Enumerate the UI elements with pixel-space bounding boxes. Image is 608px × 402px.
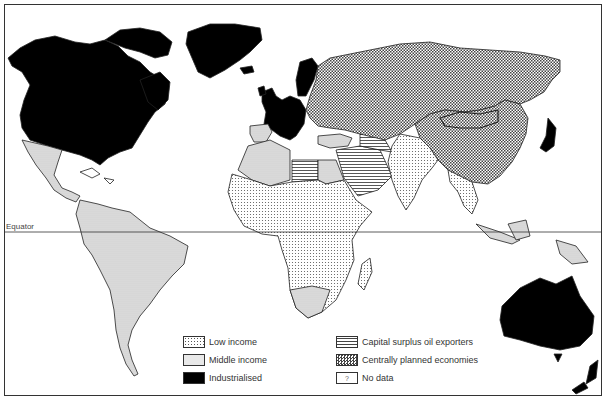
centrally-planned-swatch <box>336 354 358 366</box>
region-libya <box>292 160 318 182</box>
legend-item-industrialised: Industrialised <box>183 372 262 384</box>
region-new-zealand <box>586 360 598 384</box>
region-south-america <box>76 200 188 376</box>
legend-item-oil-exporters: Capital surplus oil exporters <box>336 336 473 348</box>
question-mark-icon: ? <box>345 375 349 382</box>
legend-label: Low income <box>209 337 257 347</box>
region-australia <box>500 276 594 350</box>
no-data-swatch: ? <box>336 372 358 384</box>
legend-item-low-income: Low income <box>183 336 257 348</box>
legend-item-centrally-planned: Centrally planned economies <box>336 354 478 366</box>
region-japan <box>540 118 556 152</box>
industrialised-swatch <box>183 372 205 384</box>
oil-exporters-swatch <box>336 336 358 348</box>
low-income-swatch <box>183 336 205 348</box>
legend-item-no-data: ? No data <box>336 372 394 384</box>
legend-label: Centrally planned economies <box>362 355 478 365</box>
legend-label: No data <box>362 373 394 383</box>
middle-income-swatch <box>183 354 205 366</box>
legend-item-middle-income: Middle income <box>183 354 267 366</box>
equator-label: Equator <box>6 222 34 231</box>
legend-label: Capital surplus oil exporters <box>362 337 473 347</box>
world-map <box>0 0 608 402</box>
legend-label: Industrialised <box>209 373 262 383</box>
legend-label: Middle income <box>209 355 267 365</box>
